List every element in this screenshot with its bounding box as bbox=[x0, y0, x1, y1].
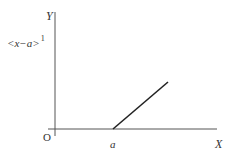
ramp-line bbox=[113, 82, 168, 129]
function-label-exponent: 1 bbox=[41, 34, 45, 43]
origin-label: O bbox=[43, 131, 51, 143]
y-axis-label: Y bbox=[46, 9, 54, 23]
ramp-function-diagram: Y <x−a>1 O a X bbox=[0, 0, 234, 154]
function-label: <x−a>1 bbox=[7, 34, 45, 49]
x-tick-label-a: a bbox=[110, 138, 116, 150]
x-axis-label: X bbox=[214, 137, 223, 151]
function-label-base: <x−a> bbox=[7, 37, 40, 49]
